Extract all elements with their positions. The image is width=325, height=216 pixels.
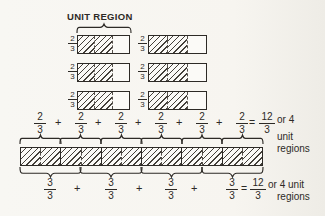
eq1-suffix-line: unit [277, 131, 293, 142]
unit-rectangle [148, 63, 207, 82]
pair-brace [60, 135, 101, 144]
eq2-term: 33 [165, 177, 177, 201]
shaded-third [78, 92, 94, 109]
bar-third [101, 148, 121, 165]
eq1-suffix-line: regions [277, 143, 310, 154]
shaded-third [94, 64, 111, 81]
plus-sign: + [135, 117, 141, 128]
eq1-term: 23 [115, 111, 127, 135]
eq2-suffix-line: or 4 unit [268, 179, 304, 190]
eq1-term: 23 [236, 111, 248, 135]
empty-third [112, 64, 129, 81]
empty-third [187, 64, 206, 81]
shaded-third [149, 36, 167, 53]
bar-third [202, 148, 222, 165]
bar-third [121, 148, 141, 165]
plus-sign: + [136, 183, 142, 194]
shaded-third [94, 36, 111, 53]
eq2-term: 33 [105, 177, 117, 201]
unit-row-fraction: 23 [138, 90, 147, 109]
fraction-diagram: UNIT REGION 23 23 23 23 23 23 23 + 23 + … [0, 0, 325, 216]
empty-third [112, 36, 129, 53]
eq2-term: 33 [44, 177, 56, 201]
bar-third [40, 148, 60, 165]
group-brace [141, 167, 202, 177]
plus-sign: + [74, 183, 80, 194]
eq2-term: 33 [226, 177, 238, 201]
unit-rectangle [148, 91, 207, 110]
group-brace [20, 167, 81, 177]
eq1-term: 23 [34, 111, 46, 135]
eq1-term: 23 [75, 111, 87, 135]
unit-region-brace [77, 24, 131, 33]
plus-sign: + [216, 117, 222, 128]
pair-brace [20, 135, 61, 144]
plus-sign: + [55, 117, 61, 128]
shaded-third [149, 64, 167, 81]
empty-third [187, 36, 206, 53]
unit-rectangle [148, 35, 207, 54]
bar-third [181, 148, 201, 165]
pair-brace [222, 135, 263, 144]
empty-third [112, 92, 129, 109]
unit-row-fraction: 23 [138, 34, 147, 53]
eq1-term: 23 [196, 111, 208, 135]
plus-sign: + [176, 117, 182, 128]
unit-rectangle [77, 35, 130, 54]
eq1-suffix-line: or 4 [277, 114, 294, 125]
group-brace [202, 167, 263, 177]
bar-third [161, 148, 181, 165]
plus-sign: + [95, 117, 101, 128]
shaded-third [78, 64, 94, 81]
eq1-result: 123 [259, 111, 275, 135]
bar-third [141, 148, 161, 165]
combined-bar [20, 147, 263, 166]
unit-row-fraction: 23 [68, 62, 77, 81]
pair-brace [182, 135, 222, 144]
unit-region-label: UNIT REGION [67, 11, 133, 22]
shaded-third [167, 36, 186, 53]
eq1-term: 23 [155, 111, 167, 135]
unit-row-fraction: 23 [68, 90, 77, 109]
bar-third [21, 148, 40, 165]
pair-brace [141, 135, 182, 144]
unit-rectangle [77, 63, 130, 82]
bar-third [60, 148, 80, 165]
equals-sign: = [249, 117, 255, 128]
bar-third [242, 148, 262, 165]
shaded-third [78, 36, 94, 53]
unit-rectangle [77, 91, 130, 110]
empty-third [187, 92, 206, 109]
shaded-third [94, 92, 111, 109]
shaded-third [149, 92, 167, 109]
unit-row-fraction: 23 [68, 34, 77, 53]
group-brace [80, 167, 142, 177]
eq2-suffix-line: regions [277, 191, 310, 202]
bar-third [81, 148, 101, 165]
shaded-third [167, 92, 186, 109]
pair-brace [101, 135, 142, 144]
shaded-third [167, 64, 186, 81]
equals-sign: = [241, 183, 247, 194]
eq2-result: 123 [250, 177, 266, 201]
unit-row-fraction: 23 [138, 62, 147, 81]
bar-third [222, 148, 242, 165]
plus-sign: + [191, 183, 197, 194]
